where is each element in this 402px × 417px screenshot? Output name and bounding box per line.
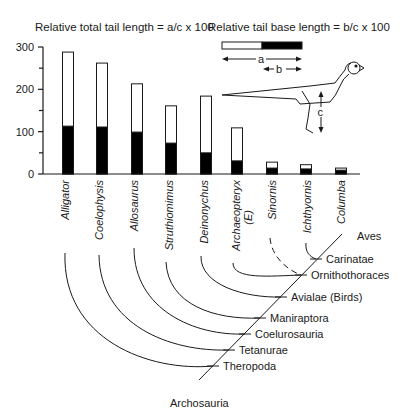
bar-base bbox=[201, 153, 212, 174]
cladogram-branch bbox=[233, 263, 301, 276]
clade-label: Maniraptora bbox=[270, 312, 330, 324]
bar-base bbox=[336, 170, 347, 174]
cladogram: AvesCarinataeOrnithothoracesAvialae (Bir… bbox=[65, 230, 390, 409]
y-tick-label: 0 bbox=[28, 168, 34, 180]
bar-base bbox=[63, 126, 74, 174]
bird-outline-icon: c bbox=[222, 62, 364, 133]
taxon-label: Deinonychus bbox=[198, 180, 210, 244]
y-tick-label: 100 bbox=[16, 126, 34, 138]
label-a: a bbox=[258, 53, 265, 65]
label-c: c bbox=[318, 106, 324, 118]
label-b: b bbox=[276, 63, 282, 75]
clade-label: Carinatae bbox=[326, 253, 374, 265]
clade-label: Coelurosauria bbox=[255, 328, 324, 340]
cladogram-branch-dashed bbox=[270, 238, 301, 275]
cladogram-branch bbox=[65, 253, 213, 367]
right-title: Relative tail base length = b/c x 100 bbox=[208, 21, 390, 33]
taxon-label: Columba bbox=[335, 180, 347, 224]
clade-label: Avialae (Birds) bbox=[291, 291, 362, 303]
y-tick-label: 300 bbox=[16, 41, 34, 53]
clade-label: Ornithothoraces bbox=[311, 269, 390, 281]
bar-base bbox=[166, 143, 177, 174]
tail-length-figure: Relative total tail length = a/c x 100 R… bbox=[0, 0, 402, 417]
taxon-label: Struthiomimus bbox=[163, 180, 175, 251]
bar-group bbox=[336, 168, 347, 174]
left-title: Relative total tail length = a/c x 100 bbox=[35, 21, 214, 33]
taxon-label: Archaeopteryx bbox=[230, 180, 242, 252]
bar-base bbox=[267, 168, 278, 174]
bar-group bbox=[201, 96, 212, 174]
clade-label: Archosauria bbox=[170, 397, 230, 409]
taxon-label: Alligator bbox=[59, 179, 71, 221]
clade-label: Aves bbox=[357, 230, 382, 242]
bar-base bbox=[132, 132, 143, 174]
clade-label: Tetanurae bbox=[239, 344, 288, 356]
arrow-b: b bbox=[263, 63, 302, 75]
cladogram-branch bbox=[166, 262, 260, 318]
bar-group bbox=[132, 84, 143, 174]
legend-filled-segment bbox=[262, 42, 302, 49]
bar-series bbox=[63, 52, 347, 174]
clade-label: Theropoda bbox=[223, 360, 277, 372]
taxon-label: Sinornis bbox=[266, 180, 278, 220]
cladogram-branch bbox=[306, 243, 316, 259]
cladogram-branch bbox=[99, 255, 229, 350]
legend-open-segment bbox=[222, 42, 262, 49]
bar-group bbox=[166, 106, 177, 174]
cladogram-branch bbox=[134, 248, 245, 334]
y-tick-label: 200 bbox=[16, 83, 34, 95]
taxon-label: Ichthyornis bbox=[301, 180, 313, 234]
taxon-sublabel: (E) bbox=[242, 210, 254, 225]
bar-base bbox=[301, 169, 312, 174]
taxon-label: Coelophysis bbox=[93, 180, 105, 240]
taxon-label: Allosaurus bbox=[128, 180, 140, 233]
bar-group bbox=[232, 128, 243, 174]
arrow-a: a bbox=[222, 53, 302, 65]
cladogram-spine bbox=[199, 234, 342, 380]
bar-base bbox=[232, 161, 243, 174]
bar-group bbox=[97, 63, 108, 174]
bar-group bbox=[63, 52, 74, 174]
cladogram-branch bbox=[201, 256, 281, 297]
bar-group bbox=[301, 165, 312, 174]
taxon-labels: AlligatorCoelophysisAllosaurusStruthiomi… bbox=[59, 179, 347, 252]
bar-base bbox=[97, 127, 108, 174]
bar-group bbox=[267, 162, 278, 174]
legend-scale-bar: a b bbox=[222, 42, 302, 75]
